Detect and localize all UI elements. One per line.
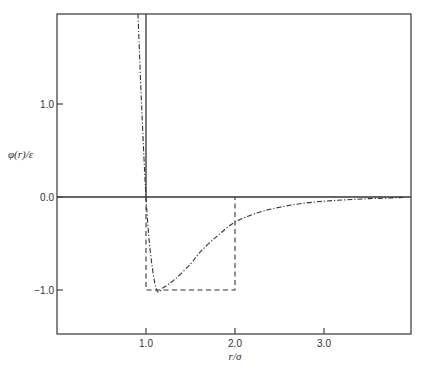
x-axis-label: r/σ <box>229 350 242 362</box>
y-tick-label: −1.0 <box>34 285 54 296</box>
plot-frame <box>57 14 411 334</box>
continuous-potential-line <box>138 14 404 292</box>
y-tick-label: 1.0 <box>40 99 54 110</box>
axis-ticks: 1.02.03.01.00.0−1.0 <box>34 99 331 350</box>
x-tick-label: 1.0 <box>139 338 153 349</box>
y-tick-label: 0.0 <box>40 192 54 203</box>
y-axis-label: φ(r)/ε <box>8 148 34 161</box>
potential-chart: 1.02.03.01.00.0−1.0 r/σ φ(r)/ε <box>0 0 422 366</box>
plot-area <box>57 14 411 292</box>
x-tick-label: 3.0 <box>317 338 331 349</box>
x-tick-label: 2.0 <box>228 338 242 349</box>
square-well-potential-line <box>146 197 235 290</box>
